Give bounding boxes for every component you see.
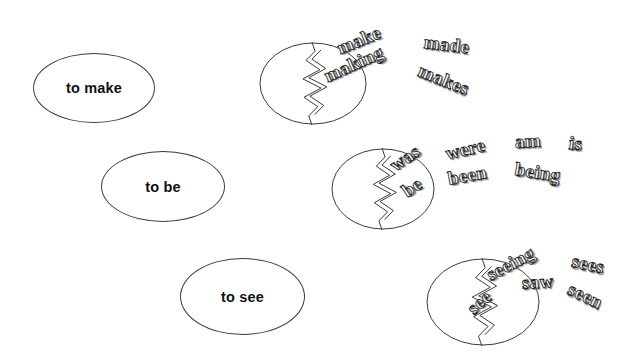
word-is: is — [568, 132, 584, 155]
word-sees: sees — [570, 250, 607, 278]
infinitive-ellipse-make[interactable]: to make — [33, 53, 155, 123]
word-am: am — [514, 130, 541, 153]
word-been: been — [446, 161, 488, 189]
diagram-canvas: to makemakemademakingmakesto bewasweream… — [0, 0, 642, 361]
infinitive-label-be: to be — [101, 151, 225, 222]
word-seen: seen — [564, 278, 606, 314]
word-were: were — [444, 134, 488, 164]
infinitive-ellipse-be[interactable]: to be — [101, 151, 225, 222]
infinitive-label-see: to see — [180, 258, 305, 335]
word-saw: saw — [521, 270, 554, 294]
infinitive-ellipse-see[interactable]: to see — [180, 258, 305, 335]
word-being: being — [513, 158, 562, 187]
word-made: made — [423, 31, 471, 58]
word-makes: makes — [415, 60, 473, 100]
infinitive-label-make: to make — [33, 53, 155, 123]
